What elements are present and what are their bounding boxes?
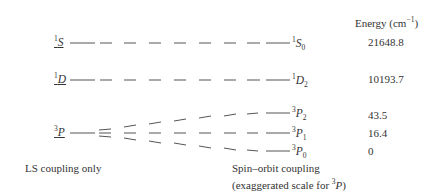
energy-value-3P2: 43.5 — [368, 110, 387, 121]
term-label-3P: 3P — [54, 125, 65, 139]
level-label-3P0: 3P0 — [292, 144, 307, 160]
caption-spin-orbit: Spin–orbit coupling (exaggerated scale f… — [232, 162, 346, 192]
level-label-3P1: 3P1 — [292, 126, 307, 142]
energy-value-1S0: 21648.8 — [368, 37, 404, 48]
level-label-3P2: 3P2 — [292, 106, 307, 122]
term-label-1D: 1D — [54, 72, 66, 86]
energy-value-3P1: 16.4 — [368, 128, 387, 139]
energy-value-1D2: 10193.7 — [368, 74, 404, 85]
energy-value-3P0: 0 — [368, 146, 374, 157]
energy-header: Energy (cm−1) — [355, 13, 418, 30]
level-label-1D2: 1D2 — [292, 73, 308, 89]
caption-ls-coupling: LS coupling only — [25, 162, 101, 175]
term-label-1S: 1S — [54, 35, 64, 49]
level-label-1S0: 1S0 — [292, 36, 305, 52]
